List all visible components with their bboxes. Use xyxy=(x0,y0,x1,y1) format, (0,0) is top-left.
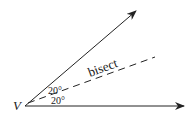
bisector-label: bisect xyxy=(86,55,120,80)
angle-bisector-diagram: bisect 20° 20° V xyxy=(0,0,194,118)
upper-ray xyxy=(25,11,136,106)
vertex-label: V xyxy=(13,98,23,113)
lower-angle-label: 20° xyxy=(51,95,65,106)
